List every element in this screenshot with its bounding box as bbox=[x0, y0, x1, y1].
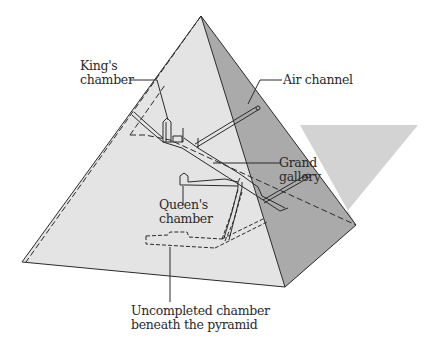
label-line: Grand bbox=[279, 156, 321, 170]
label-queens-chamber: Queen's chamber bbox=[159, 198, 213, 226]
label-line: chamber bbox=[159, 212, 213, 226]
label-line: King's bbox=[80, 59, 134, 73]
label-line: beneath the pyramid bbox=[131, 318, 270, 332]
label-line: Queen's bbox=[159, 198, 213, 212]
label-uncompleted-chamber: Uncompleted chamber beneath the pyramid bbox=[131, 304, 270, 332]
label-line: gallery bbox=[279, 170, 321, 184]
pyramid-diagram bbox=[0, 0, 425, 347]
label-air-channel: Air channel bbox=[283, 73, 353, 87]
label-line: chamber bbox=[80, 73, 134, 87]
label-grand-gallery: Grand gallery bbox=[279, 156, 321, 184]
label-line: Uncompleted chamber bbox=[131, 304, 270, 318]
label-kings-chamber: King's chamber bbox=[80, 59, 134, 87]
label-line: Air channel bbox=[283, 73, 353, 87]
